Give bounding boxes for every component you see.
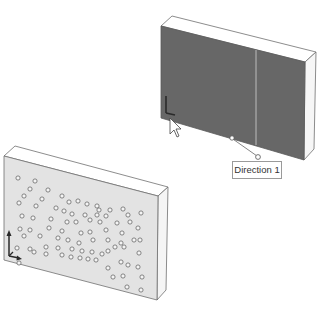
hole <box>66 238 70 242</box>
hole <box>44 245 48 249</box>
hole <box>95 213 99 217</box>
hole <box>125 285 129 289</box>
hole <box>104 214 108 218</box>
hole <box>79 231 83 235</box>
hole <box>56 236 60 240</box>
hole <box>121 274 125 278</box>
hole <box>95 204 99 208</box>
hole <box>86 257 90 261</box>
hole <box>32 250 36 254</box>
hole <box>90 250 94 254</box>
hole <box>34 204 38 208</box>
hole <box>126 213 130 217</box>
hole <box>136 226 140 230</box>
hole <box>80 249 84 253</box>
hole <box>22 194 26 198</box>
hole <box>49 217 53 221</box>
hole <box>38 234 42 238</box>
hole <box>121 207 125 211</box>
hole <box>88 218 92 222</box>
hole <box>47 226 51 230</box>
hole <box>119 260 123 264</box>
hole <box>60 253 64 257</box>
hole <box>60 229 64 233</box>
hole <box>60 194 64 198</box>
hole <box>33 179 37 183</box>
hole <box>91 238 95 242</box>
hole <box>111 275 115 279</box>
hole <box>126 263 130 267</box>
hole <box>140 275 144 279</box>
hole <box>67 200 71 204</box>
hole <box>28 247 32 251</box>
hole <box>69 255 73 259</box>
hole <box>100 252 104 256</box>
hole <box>139 211 143 215</box>
top-plate-side-face[interactable] <box>304 52 316 160</box>
hole <box>17 201 21 205</box>
hole <box>136 265 140 269</box>
hole <box>132 238 136 242</box>
hole <box>18 227 22 231</box>
hole <box>28 187 32 191</box>
bottom-plate-front-face[interactable] <box>4 156 158 300</box>
hole <box>31 216 35 220</box>
bottom-plate-side-face[interactable] <box>157 187 168 300</box>
direction-1-callout-label[interactable]: Direction 1 <box>232 161 282 179</box>
hole <box>56 246 60 250</box>
hole <box>94 258 98 262</box>
hole <box>137 251 141 255</box>
hole <box>83 213 87 217</box>
hole <box>28 228 32 232</box>
hole <box>85 202 89 206</box>
hole <box>70 212 74 216</box>
hole <box>16 176 20 180</box>
hole <box>128 220 132 224</box>
hole <box>88 230 92 234</box>
bottom-plate-model[interactable] <box>4 146 168 300</box>
graphics-area[interactable] <box>0 0 329 317</box>
hole <box>70 247 74 251</box>
hole <box>115 221 119 225</box>
hole <box>17 261 21 265</box>
hole <box>44 252 48 256</box>
hole <box>122 245 126 249</box>
hole <box>104 228 108 232</box>
hole <box>106 249 110 253</box>
hole <box>106 266 110 270</box>
hole <box>139 288 143 292</box>
hole <box>138 238 142 242</box>
hole <box>76 199 80 203</box>
hole <box>40 197 44 201</box>
hole <box>46 188 50 192</box>
hole <box>97 208 101 212</box>
hole <box>78 256 82 260</box>
hole <box>62 209 66 213</box>
hole <box>120 231 124 235</box>
hole <box>106 238 110 242</box>
top-plate-model[interactable] <box>161 16 316 160</box>
hole <box>20 214 24 218</box>
hole <box>77 241 81 245</box>
hole <box>119 241 123 245</box>
hole <box>54 206 58 210</box>
hole <box>65 220 69 224</box>
hole <box>22 234 26 238</box>
hole <box>113 245 117 249</box>
hole <box>98 220 102 224</box>
hole <box>74 220 78 224</box>
hole <box>15 246 19 250</box>
hole <box>108 208 112 212</box>
